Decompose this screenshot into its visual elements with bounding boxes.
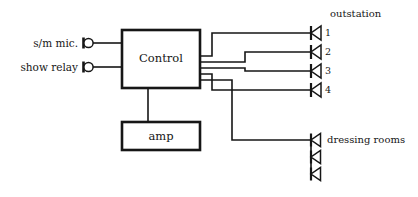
outstation-number-1: 1 — [325, 28, 331, 38]
speaker-dressing-room-3 — [311, 168, 321, 181]
dressing-rooms-heading: dressing rooms — [327, 135, 405, 145]
system-schematic — [0, 0, 418, 197]
outstation-number-2: 2 — [325, 47, 331, 57]
speaker-dressing-room-1 — [311, 134, 321, 147]
speaker-dressing-room-2 — [311, 151, 321, 164]
speaker-outstation-1 — [311, 26, 321, 40]
speaker-outstation-2 — [311, 45, 321, 59]
bus-line-outstation-3 — [200, 68, 311, 71]
outstation-number-4: 4 — [325, 85, 331, 95]
bus-line-outstation-2 — [200, 52, 311, 62]
input-jack-sm-mic — [84, 38, 123, 49]
input-label-show-relay: show relay — [0, 62, 78, 73]
bus-line-outstation-4 — [200, 74, 311, 90]
input-label-sm-mic: s/m mic. — [0, 38, 78, 49]
input-jack-show-relay — [84, 62, 123, 73]
amp-block-label: amp — [122, 131, 200, 143]
bus-line-dressing-rooms — [200, 80, 311, 140]
speaker-outstation-3 — [311, 64, 321, 78]
control-block-label: Control — [122, 53, 200, 65]
speaker-outstation-4 — [311, 83, 321, 97]
outstation-number-3: 3 — [325, 66, 331, 76]
outstation-heading: outstation — [330, 9, 381, 19]
